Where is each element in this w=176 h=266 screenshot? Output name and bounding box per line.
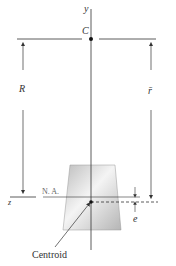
z-axis-label: z xyxy=(8,199,11,207)
radius-label: R xyxy=(19,84,25,94)
center-label: C xyxy=(82,26,89,36)
curved-beam-diagram xyxy=(0,0,176,266)
y-axis-label: y xyxy=(84,4,88,14)
rbar-label: r̄ xyxy=(148,86,152,96)
eccentricity-label: e xyxy=(133,214,137,224)
centroid-label: Centroid xyxy=(32,250,67,260)
centroid-point xyxy=(89,200,93,204)
cross-section-shape xyxy=(63,165,121,230)
center-point xyxy=(89,37,93,41)
neutral-axis-label: N. A. xyxy=(42,188,59,196)
